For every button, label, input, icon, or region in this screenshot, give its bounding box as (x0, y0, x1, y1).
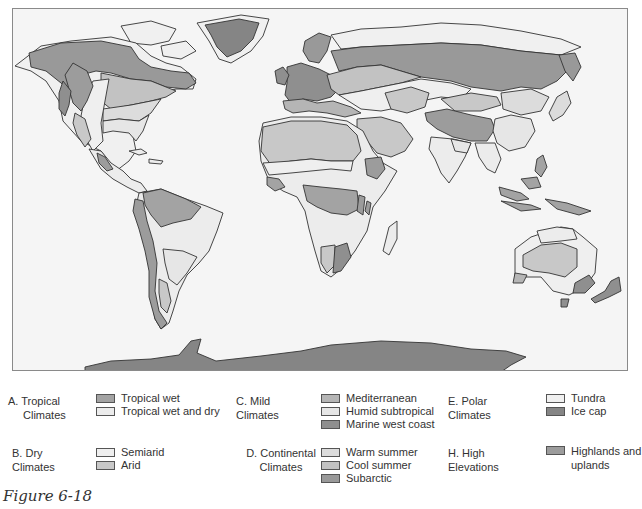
swatch-humid-subtropical (321, 407, 340, 416)
legend-item-arid: Arid (96, 459, 141, 472)
legend-group-title-line1: E. Polar Climates (448, 394, 491, 422)
region-east-asia-warm-summer (501, 89, 549, 115)
swatch-warm-summer (321, 448, 340, 457)
swatch-tropical-wet (96, 394, 115, 403)
region-caribbean (129, 149, 163, 164)
legend-item-ice-cap: Ice cap (546, 405, 606, 418)
swatch-highlands (546, 446, 565, 455)
region-antarctica-icecap (85, 339, 526, 371)
region-australia-mediterranean (513, 273, 527, 283)
swatch-ice-cap (546, 407, 565, 416)
legend-group-dry-title: B. Dry Climates (12, 446, 55, 474)
region-madagascar (383, 221, 397, 255)
legend-item-semiarid: Semiarid (96, 446, 164, 459)
swatch-arid (96, 461, 115, 470)
legend-group-mild-title: C. Mild Climates (236, 394, 279, 422)
figure-caption: Figure 6-18 (3, 487, 92, 505)
legend-item-humid-subtropical: Humid subtropical (321, 405, 434, 418)
swatch-tropical-wet-and-dry (96, 407, 115, 416)
legend-group-polar-title: E. Polar Climates (448, 394, 491, 422)
legend-group-continental-title: D. Continental Climates (244, 446, 318, 474)
region-southern-africa-humid (333, 243, 351, 273)
legend-item-highlands: Highlands and uplands (546, 444, 642, 472)
map-svg (13, 9, 628, 371)
region-indonesia (499, 177, 591, 215)
swatch-subarctic (321, 474, 340, 483)
swatch-mediterranean (321, 394, 340, 403)
legend-group-high-elevations-title: H. High Elevations (448, 446, 499, 474)
swatch-semiarid (96, 448, 115, 457)
region-new-zealand (591, 277, 621, 303)
legend-group-title-line2: Climates (8, 408, 82, 422)
region-china-humid-subtropical (493, 115, 535, 151)
region-scandinavia (303, 33, 331, 63)
region-japan (549, 91, 571, 121)
legend-group-tropical-title: A. Tropical Climates (8, 394, 82, 422)
region-tibet-highlands (425, 109, 495, 141)
legend-item-tropical-wet: Tropical wet (96, 392, 180, 405)
region-tasmania (561, 299, 569, 307)
legend-group-title-line1: A. Tropical (8, 394, 82, 408)
legend-item-cool-summer: Cool summer (321, 459, 411, 472)
legend-group-title-line1: C. Mild Climates (236, 394, 279, 422)
legend-item-warm-summer: Warm summer (321, 446, 418, 459)
legend-item-subarctic: Subarctic (321, 472, 392, 485)
legend-item-tropical-wet-and-dry: Tropical wet and dry (96, 405, 220, 418)
legend-group-title-line1: B. Dry Climates (12, 446, 55, 474)
swatch-tundra (546, 394, 565, 403)
swatch-marine-west-coast (321, 420, 340, 429)
region-philippines (535, 155, 547, 177)
legend-item-tundra: Tundra (546, 392, 605, 405)
legend-item-marine-west-coast: Marine west coast (321, 418, 435, 431)
region-sahara-arid (261, 121, 361, 165)
swatch-cool-summer (321, 461, 340, 470)
legend-item-mediterranean: Mediterranean (321, 392, 417, 405)
legend-group-title-line2: Climates (244, 460, 318, 474)
legend-group-title-line1: H. High Elevations (448, 446, 499, 474)
region-southeast-asia (475, 143, 501, 173)
legend-group-title-line1: D. Continental (244, 446, 318, 460)
world-climate-map (12, 8, 628, 371)
